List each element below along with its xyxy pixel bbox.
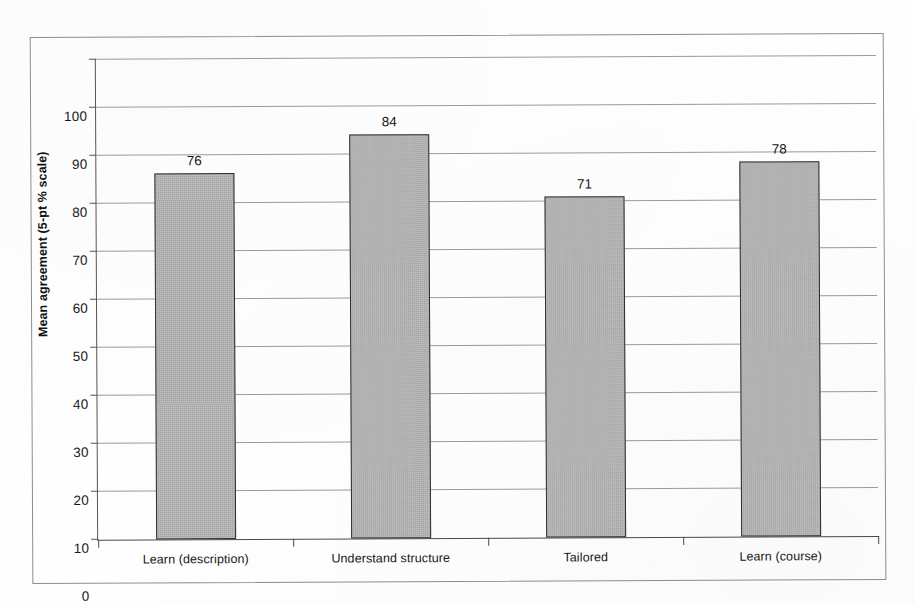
y-axis-tick-labels: 100 90 80 70 60 50 40 30 20 10 0 [33, 59, 89, 540]
y-tick-label: 10 [39, 542, 89, 556]
y-tick-label: 70 [38, 254, 88, 268]
y-tick-label: 0 [39, 590, 89, 604]
y-tick-mark [89, 59, 96, 60]
x-axis-category-label: Learn (course) [683, 549, 878, 565]
y-tick-mark [90, 395, 97, 396]
y-tick-label: 50 [38, 350, 88, 364]
y-tick-mark [89, 155, 96, 156]
y-tick-mark [91, 443, 98, 444]
x-tick-mark [98, 540, 99, 548]
y-tick-mark [90, 251, 97, 252]
bar[interactable] [739, 161, 821, 537]
bar-group-1: 84 [291, 57, 488, 539]
x-tick-mark [293, 539, 294, 547]
x-axis-category-label: Tailored [488, 550, 683, 566]
x-axis-category-label: Learn (description) [98, 552, 293, 568]
y-tick-mark [90, 299, 97, 300]
plot-area: 76 84 71 78 [96, 55, 878, 540]
x-tick-mark [683, 537, 684, 545]
bar-group-0: 76 [96, 58, 293, 540]
x-axis-category-label: Understand structure [293, 551, 488, 567]
y-tick-mark [90, 203, 97, 204]
bar-value-label: 76 [154, 155, 234, 169]
x-tick-mark [488, 538, 489, 546]
bar-value-label: 84 [349, 115, 429, 129]
y-tick-label: 100 [37, 110, 87, 124]
bar-chart-figure: Mean agreement (5-pt % scale) 100 90 80 … [0, 0, 915, 604]
y-tick-label: 20 [39, 494, 89, 508]
bar-group-2: 71 [486, 56, 683, 538]
bar-value-label: 78 [739, 142, 819, 156]
y-tick-label: 60 [38, 302, 88, 316]
bar[interactable] [544, 196, 626, 538]
y-tick-mark [90, 347, 97, 348]
bar-value-label: 71 [544, 177, 624, 191]
x-tick-mark [878, 536, 879, 544]
y-tick-mark [91, 491, 98, 492]
y-tick-mark [89, 107, 96, 108]
y-tick-label: 40 [38, 398, 88, 412]
y-tick-label: 80 [38, 206, 88, 220]
y-tick-label: 30 [39, 446, 89, 460]
bar[interactable] [154, 174, 236, 540]
bar-group-3: 78 [681, 55, 878, 537]
y-tick-label: 90 [37, 158, 87, 172]
y-tick-mark [91, 539, 98, 540]
bar[interactable] [349, 134, 431, 538]
